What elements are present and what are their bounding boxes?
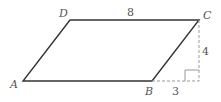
right-angle-marker bbox=[185, 70, 199, 81]
vertex-label-a: A bbox=[9, 78, 18, 91]
parallelogram-abcd bbox=[23, 20, 199, 81]
measure-extension: 3 bbox=[172, 85, 179, 98]
measure-top-side: 8 bbox=[127, 6, 134, 19]
measure-height: 4 bbox=[202, 45, 209, 58]
vertex-label-c: C bbox=[203, 9, 212, 22]
parallelogram-diagram: D C A B 8 4 3 bbox=[0, 0, 221, 102]
vertex-label-b: B bbox=[144, 85, 153, 98]
vertex-label-d: D bbox=[58, 7, 68, 20]
